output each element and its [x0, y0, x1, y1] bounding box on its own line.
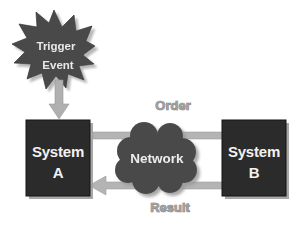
system-a-label-line1: System — [32, 143, 84, 160]
network-label: Network — [130, 151, 184, 166]
result-label: Result — [150, 200, 190, 215]
diagram-canvas: Order Result Trigger Event System A — [0, 0, 296, 227]
node-system-a[interactable]: System A — [26, 120, 93, 199]
system-b-label-line2: B — [249, 164, 260, 181]
order-label: Order — [155, 98, 190, 113]
node-system-b[interactable]: System B — [222, 120, 289, 199]
trigger-label-line2: Event — [42, 59, 73, 71]
diagram-svg: Order Result Trigger Event System A — [0, 0, 296, 227]
node-trigger-event[interactable]: Trigger Event — [12, 10, 95, 89]
trigger-label-line1: Trigger — [37, 40, 77, 52]
system-a-label-line2: A — [53, 164, 64, 181]
system-b-label-line1: System — [228, 143, 280, 160]
